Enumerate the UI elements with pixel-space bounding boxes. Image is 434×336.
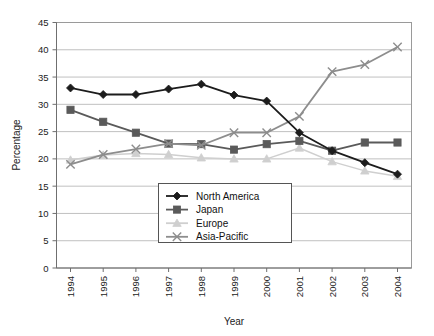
x-tick-label: 2000	[261, 276, 272, 297]
y-tick-label: 35	[38, 72, 49, 83]
x-tick-label: 2004	[392, 276, 403, 297]
x-tick-label: 1995	[98, 276, 109, 297]
legend-label: Asia-Pacific	[196, 231, 248, 242]
x-tick-label: 1997	[163, 276, 174, 297]
y-tick-label: 20	[38, 153, 49, 164]
y-axis-title: Percentage	[11, 119, 22, 171]
line-chart: 051015202530354045 199419951996199719981…	[0, 0, 434, 336]
y-tick-label: 5	[43, 235, 48, 246]
x-tick-label: 2001	[294, 276, 305, 297]
x-axis-title: Year	[224, 316, 245, 327]
y-tick-label: 0	[43, 263, 48, 274]
x-tick-label: 1994	[65, 276, 76, 297]
y-tick-label: 10	[38, 208, 49, 219]
y-tick-label: 15	[38, 181, 49, 192]
x-tick-label: 1999	[229, 276, 240, 297]
x-tick-label: 2003	[359, 276, 370, 297]
chart-legend: North AmericaJapanEuropeAsia-Pacific	[159, 184, 292, 243]
x-tick-label: 1996	[130, 276, 141, 297]
y-tick-label: 45	[38, 17, 49, 28]
legend-label: Japan	[196, 204, 223, 215]
legend-label: North America	[196, 191, 260, 202]
y-tick-label: 40	[38, 44, 49, 55]
chart-container: 051015202530354045 199419951996199719981…	[0, 0, 434, 336]
y-tick-label: 30	[38, 99, 49, 110]
x-tick-label: 1998	[196, 276, 207, 297]
legend-label: Europe	[196, 218, 229, 229]
x-tick-label: 2002	[327, 276, 338, 297]
y-tick-label: 25	[38, 126, 49, 137]
